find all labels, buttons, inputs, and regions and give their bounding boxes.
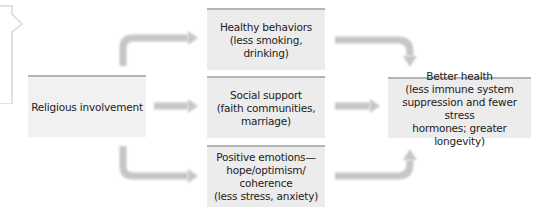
positive-emotions-box: Positive emotions— hope/optimism/ cohere… — [207, 145, 325, 207]
healthy-behaviors-detail: (less smoking, drinking) — [207, 34, 325, 60]
positive-emotions-title: Positive emotions— — [216, 151, 315, 164]
arrow-hb-to-better-health — [335, 40, 410, 56]
arrowhead-ss — [188, 99, 198, 113]
social-support-title: Social support — [230, 89, 302, 102]
positive-emotions-detail-3: (less stress, anxiety) — [214, 190, 318, 203]
religious-involvement-label: Religious involvement — [31, 101, 143, 114]
social-support-detail-1: (faith communities, — [217, 102, 316, 115]
better-health-title: Better health — [426, 70, 493, 83]
better-health-detail-3: hormones; greater longevity) — [388, 122, 531, 148]
arrow-to-healthy-behaviors — [123, 38, 188, 66]
arrowhead-bh-top — [403, 56, 417, 67]
arrowhead-bh-bottom — [403, 149, 417, 160]
healthy-behaviors-title: Healthy behaviors — [220, 21, 312, 34]
healthy-behaviors-box: Healthy behaviors (less smoking, drinkin… — [207, 8, 325, 70]
better-health-detail-2: suppression and fewer stress — [388, 96, 531, 122]
better-health-detail-1: (less immune system — [405, 83, 513, 96]
arrowhead-hb — [188, 31, 198, 45]
better-health-box: Better health (less immune system suppre… — [388, 77, 531, 138]
social-support-detail-2: marriage) — [241, 115, 291, 128]
religious-involvement-box: Religious involvement — [28, 75, 146, 137]
arrow-to-positive-emotions — [123, 146, 188, 176]
arrowhead-bh-mid — [370, 99, 380, 113]
positive-emotions-detail-2: coherence — [240, 177, 293, 190]
social-support-box: Social support (faith communities, marri… — [207, 76, 325, 138]
arrowhead-pe — [188, 169, 198, 183]
arrow-pe-to-better-health — [335, 160, 410, 176]
positive-emotions-detail-1: hope/optimism/ — [226, 164, 305, 177]
